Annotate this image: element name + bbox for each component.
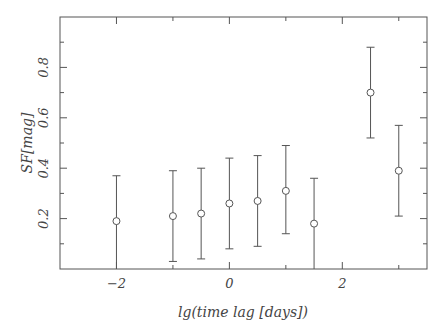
y-axis-label: SF[mag]	[19, 112, 35, 173]
data-point	[112, 176, 120, 269]
y-tick-label: 0.8	[36, 57, 51, 78]
data-point	[225, 158, 233, 249]
plot-border	[60, 17, 427, 269]
open-circle-marker	[282, 187, 289, 194]
data-point	[367, 47, 375, 138]
open-circle-marker	[169, 213, 176, 220]
open-circle-marker	[254, 197, 261, 204]
x-axis-label: lg(time lag [days])	[178, 304, 308, 320]
y-tick-label: 0.2	[36, 208, 51, 229]
open-circle-marker	[226, 200, 233, 207]
x-tick-label: −2	[107, 276, 126, 291]
data-point	[197, 168, 205, 259]
x-tick-labels: −202	[107, 276, 347, 291]
open-circle-marker	[367, 89, 374, 96]
x-tick-label: 2	[337, 276, 346, 291]
open-circle-marker	[311, 220, 318, 227]
open-circle-marker	[198, 210, 205, 217]
data-points	[112, 47, 402, 269]
axis-ticks	[60, 17, 427, 269]
data-point	[169, 171, 177, 262]
x-tick-label: 0	[225, 276, 233, 291]
plot-frame	[60, 17, 427, 269]
structure-function-chart: −202 0.20.40.60.8 lg(time lag [days]) SF…	[0, 0, 445, 334]
data-point	[310, 178, 318, 269]
open-circle-marker	[113, 218, 120, 225]
open-circle-marker	[395, 167, 402, 174]
y-tick-label: 0.6	[36, 107, 51, 128]
data-point	[254, 156, 262, 247]
y-tick-labels: 0.20.40.60.8	[36, 57, 51, 229]
data-point	[282, 146, 290, 234]
y-tick-label: 0.4	[36, 158, 51, 179]
data-point	[395, 125, 403, 216]
